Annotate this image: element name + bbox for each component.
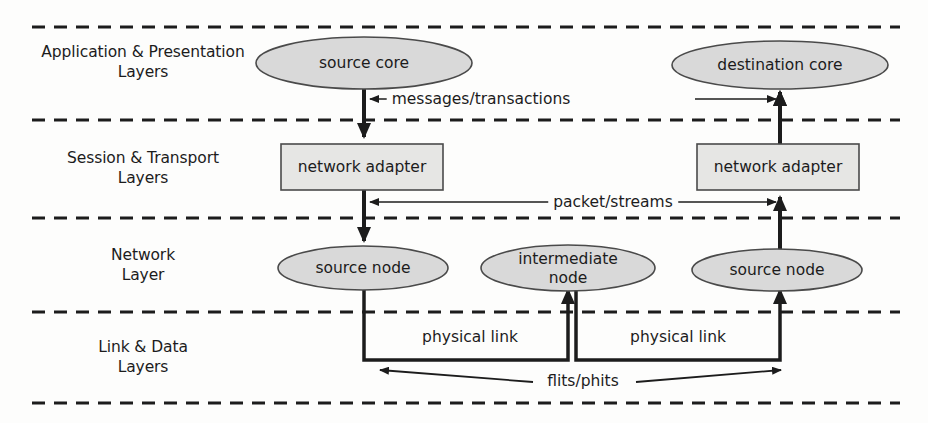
layer-label-session: Session & Transport Layers (18, 148, 268, 189)
edge-label-packet-streams: packet/streams (548, 193, 678, 211)
arrow-flits-right (636, 370, 781, 382)
layer-label-network: Network Layer (18, 245, 268, 286)
shape-source-node-right[interactable] (692, 249, 862, 291)
layer-label-link: Link & Data Layers (18, 337, 268, 378)
edge-label-physical-link-left: physical link (417, 328, 523, 346)
edge-label-flits-phits: flits/phits (542, 372, 624, 390)
edge-physical-link-left (364, 290, 568, 360)
shape-intermediate-node[interactable] (481, 245, 655, 291)
shape-source-node-left[interactable] (278, 246, 448, 290)
arrow-flits-left (380, 370, 533, 382)
shape-network-adapter-left[interactable] (281, 144, 443, 190)
edge-physical-link-right (576, 290, 780, 360)
shape-source-core[interactable] (256, 37, 472, 89)
edge-label-messages-transactions: messages/transactions (387, 90, 576, 108)
diagram-canvas: Application & Presentation Layers Sessio… (0, 0, 928, 423)
edge-label-physical-link-right: physical link (625, 328, 731, 346)
shape-network-adapter-right[interactable] (697, 144, 859, 190)
shape-destination-core[interactable] (672, 41, 888, 89)
layer-label-application: Application & Presentation Layers (18, 42, 268, 83)
